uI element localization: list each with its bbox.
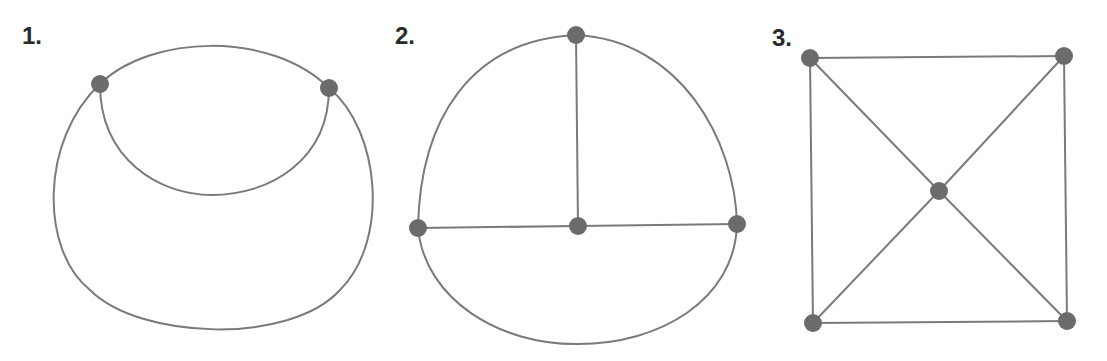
figure-2-node-center	[569, 217, 587, 235]
graph-diagrams	[0, 0, 1107, 361]
figure-3-edge-right	[1064, 56, 1067, 321]
figure-2-arc-top-right	[576, 35, 737, 224]
figure-3-node-br	[1058, 312, 1076, 330]
figure-2-node-right	[728, 215, 746, 233]
figure-2-node-top	[567, 26, 585, 44]
figure-2-arc-bottom	[418, 224, 737, 344]
figure-3-edge-diag-tr	[939, 56, 1064, 191]
figure-3-edge-diag-bl	[813, 191, 939, 323]
figure-1-upper-arc	[100, 46, 329, 88]
figure-2-edge-center-right	[578, 224, 737, 226]
figure-3-edge-top	[810, 56, 1064, 58]
figure-3-node-center	[930, 182, 948, 200]
figure-2-edge-top-center	[576, 35, 578, 226]
figure-2-arc-top-left	[418, 35, 576, 228]
figure-3-node-tl	[801, 49, 819, 67]
figure-2-graph	[418, 35, 737, 344]
figure-3-edge-bottom	[813, 321, 1067, 323]
figure-3-edge-diag-tl	[810, 58, 939, 191]
figure-1-node-left	[91, 75, 109, 93]
figure-3-node-tr	[1055, 47, 1073, 65]
figure-1-inner-arc	[100, 84, 329, 195]
figure-3-edge-left	[810, 58, 813, 323]
figure-2-edge-left-center	[418, 226, 578, 228]
figure-1-node-right	[320, 79, 338, 97]
figure-2-node-left	[409, 219, 427, 237]
figure-3-edge-diag-br	[939, 191, 1067, 321]
figure-3-node-bl	[804, 314, 822, 332]
